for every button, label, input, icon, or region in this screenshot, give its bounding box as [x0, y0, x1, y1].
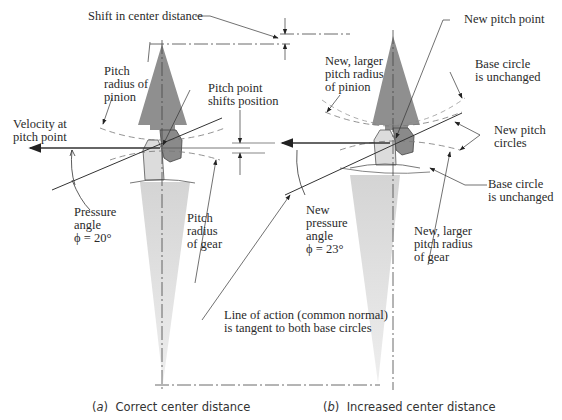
caption-b: (b) Increased center distance: [323, 400, 496, 414]
label-new-pitch-point: New pitch point: [464, 13, 545, 26]
label-new-pressure-angle: New pressure angle ϕ = 23°: [306, 204, 348, 256]
label-new-pitch-circles: New pitch circles: [494, 124, 546, 150]
label-pressure-angle: Pressure angle ϕ = 20°: [74, 206, 116, 245]
label-new-pitch-radius-pinion: New, larger pitch radius of pinion: [325, 55, 384, 94]
label-line-of-action: Line of action (common normal) is tangen…: [224, 309, 388, 335]
label-base-circle-top: Base circle is unchanged: [475, 58, 541, 84]
label-pitch-point-shifts: Pitch point shifts position: [208, 82, 279, 108]
label-velocity-pitch-point: Velocity at pitch point: [13, 118, 67, 144]
label-pitch-radius-pinion: Pitch radius of pinion: [104, 65, 148, 104]
label-shift-center-distance: Shift in center distance: [88, 10, 203, 23]
label-new-pitch-radius-gear: New, larger pitch radius of gear: [414, 225, 473, 264]
label-base-circle-bottom: Base circle is unchanged: [488, 178, 554, 204]
caption-a: (a) Correct center distance: [92, 400, 250, 414]
label-pitch-radius-gear: Pitch radius of gear: [187, 212, 222, 251]
